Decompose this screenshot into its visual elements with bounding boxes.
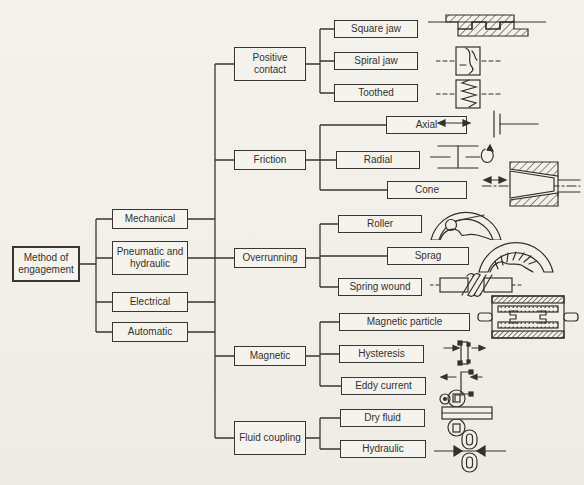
node-spring-wound: Spring wound: [338, 278, 422, 296]
node-mechanical: Mechanical: [112, 209, 188, 229]
node-positive-contact: Positive contact: [234, 47, 306, 81]
node-electrical: Electrical: [112, 292, 188, 312]
node-overrunning: Overrunning: [234, 248, 306, 268]
axial-illustration: [436, 110, 540, 138]
node-friction: Friction: [234, 150, 306, 170]
node-spiral-jaw: Spiral jaw: [334, 52, 418, 70]
node-sprag: Sprag: [387, 247, 469, 265]
sprag-illustration: [478, 230, 554, 274]
node-magnetic: Magnetic: [234, 346, 306, 366]
node-magnetic-particle: Magnetic particle: [339, 313, 470, 331]
clutch-engagement-classification-diagram: Method of engagement Mechanical Pneumati…: [0, 0, 584, 485]
cone-illustration: [482, 160, 582, 208]
hysteresis-illustration: [442, 339, 486, 367]
hydraulic-illustration: [434, 428, 506, 474]
node-fluid-coupling: Fluid coupling: [234, 421, 306, 455]
node-automatic: Automatic: [112, 322, 188, 342]
node-eddy-current: Eddy current: [341, 377, 426, 395]
node-radial: Radial: [336, 151, 420, 169]
node-method-of-engagement: Method of engagement: [12, 246, 80, 282]
node-hysteresis: Hysteresis: [339, 345, 424, 363]
node-square-jaw: Square jaw: [334, 20, 418, 38]
node-dry-fluid: Dry fluid: [340, 409, 425, 427]
node-roller: Roller: [338, 215, 422, 233]
toothed-illustration: [436, 78, 502, 110]
square-jaw-illustration: [428, 12, 546, 42]
node-pneumatic-hydraulic: Pneumatic and hydraulic: [112, 241, 188, 275]
spiral-jaw-illustration: [436, 45, 502, 77]
node-hydraulic: Hydraulic: [340, 440, 426, 458]
magnetic-particle-illustration: [476, 294, 580, 340]
node-toothed: Toothed: [334, 84, 418, 102]
node-cone: Cone: [387, 181, 467, 199]
